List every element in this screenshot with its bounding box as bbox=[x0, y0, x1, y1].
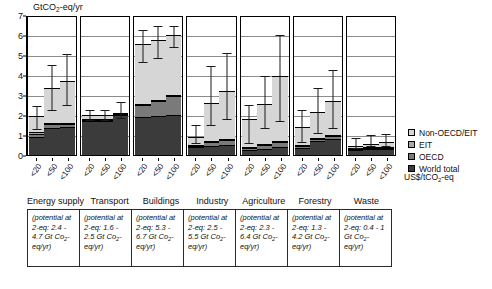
segment-world-total bbox=[257, 149, 272, 155]
sector-name-row: Energy supplyTransportBuildingsIndustryA… bbox=[27, 196, 392, 209]
error-cap-lower bbox=[207, 125, 216, 126]
segment-world-total bbox=[135, 117, 150, 155]
bar-group bbox=[294, 17, 342, 155]
error-cap-lower bbox=[222, 119, 231, 120]
y-tick-mark bbox=[23, 36, 26, 37]
segment-world-total bbox=[325, 139, 340, 155]
segment-world-total bbox=[363, 149, 378, 155]
bar-slot bbox=[219, 17, 234, 155]
sector-label: Energy supply bbox=[27, 196, 84, 209]
stacked-bar[interactable] bbox=[98, 115, 113, 155]
error-cap-upper bbox=[298, 110, 307, 111]
x-tick-mark bbox=[52, 158, 53, 161]
chart-figure: GtCO2-eq/yr 01234567 <20<50<100<20<50<10… bbox=[0, 0, 492, 289]
bar-slot bbox=[44, 17, 59, 155]
x-tick-label: <50 bbox=[204, 162, 219, 178]
x-tick-cell: <20 bbox=[28, 158, 44, 188]
error-cap-lower bbox=[298, 142, 307, 143]
legend-swatch-icon bbox=[408, 129, 415, 136]
bar-slot bbox=[98, 17, 113, 155]
sector-note-row: (potential at 2-eq: 2.4 - 4.7 Gt Co2-eq/… bbox=[27, 209, 392, 267]
y-tick-mark bbox=[23, 116, 26, 117]
x-tick-group: <20<50<100 bbox=[28, 158, 76, 188]
x-tick-mark bbox=[228, 158, 229, 161]
sector-label: Buildings bbox=[135, 196, 186, 209]
x-tick-label: <20 bbox=[188, 162, 203, 178]
error-cap-upper bbox=[207, 66, 216, 67]
segment-world-total bbox=[113, 115, 128, 155]
legend-item[interactable]: OECD bbox=[408, 151, 492, 162]
error-cap-upper bbox=[366, 135, 375, 136]
error-cap-upper bbox=[101, 110, 110, 111]
x-tick-label: <100 bbox=[164, 162, 182, 182]
error-bar bbox=[142, 31, 143, 63]
error-cap-upper bbox=[63, 54, 72, 55]
bar-slot bbox=[325, 17, 340, 155]
segment-world-total bbox=[166, 115, 181, 155]
bar-group bbox=[28, 17, 76, 155]
chart-panel: <20<50<100 bbox=[240, 16, 290, 156]
error-bar bbox=[211, 67, 212, 126]
error-cap-lower bbox=[276, 121, 285, 122]
legend-label: World total bbox=[419, 164, 459, 174]
bar-group bbox=[347, 17, 395, 155]
x-tick-mark bbox=[142, 158, 143, 161]
segment-world-total bbox=[82, 121, 97, 155]
error-bar bbox=[173, 27, 174, 48]
error-bar bbox=[36, 107, 37, 130]
bar-slot bbox=[310, 17, 325, 155]
x-tick-label: <20 bbox=[81, 162, 96, 178]
segment-world-total bbox=[98, 121, 113, 155]
stacked-bar[interactable] bbox=[82, 115, 97, 155]
x-tick-mark bbox=[36, 158, 37, 161]
stacked-bar[interactable] bbox=[113, 113, 128, 155]
error-cap-upper bbox=[222, 53, 231, 54]
x-tick-group: <20<50<100 bbox=[187, 158, 235, 188]
x-tick-cell: <20 bbox=[187, 158, 203, 188]
bar-slot bbox=[29, 17, 44, 155]
segment-world-total bbox=[204, 146, 219, 155]
segment-oecd bbox=[151, 101, 166, 116]
sector-note: (potential at 2-eq: 5.3 - 6.7 Gt Co2-eq/… bbox=[132, 210, 184, 266]
legend-item[interactable]: Non-OECD/EIT bbox=[408, 127, 492, 138]
error-cap-upper bbox=[351, 138, 360, 139]
x-tick-cell: <50 bbox=[150, 158, 166, 188]
legend-item[interactable]: World total bbox=[408, 163, 492, 174]
x-tick-cell: <100 bbox=[326, 158, 342, 188]
x-tick-cell: <20 bbox=[347, 158, 363, 188]
x-tick-mark bbox=[211, 158, 212, 161]
x-tick-cell: <50 bbox=[97, 158, 113, 188]
bar-group bbox=[134, 17, 182, 155]
error-cap-lower bbox=[116, 118, 125, 119]
x-tick-label: <100 bbox=[270, 162, 288, 182]
sector-note: (potential at 2-eq: 1.3 - 4.2 Gt Co2-eq/… bbox=[288, 210, 340, 266]
legend-swatch-icon bbox=[408, 141, 415, 148]
legend-item[interactable]: EIT bbox=[408, 139, 492, 150]
error-bar bbox=[52, 66, 53, 111]
sector-table: Energy supplyTransportBuildingsIndustryA… bbox=[27, 196, 392, 267]
error-cap-upper bbox=[245, 105, 254, 106]
legend-swatch-icon bbox=[408, 153, 415, 160]
segment-world-total bbox=[272, 147, 287, 155]
chart-panel: <20<50<100 bbox=[27, 16, 77, 156]
error-bar bbox=[226, 54, 227, 120]
x-tick-mark bbox=[89, 158, 90, 161]
x-tick-mark bbox=[281, 158, 282, 161]
x-tick-label: <100 bbox=[111, 162, 129, 182]
x-tick-mark bbox=[334, 158, 335, 161]
x-tick-cell: <100 bbox=[113, 158, 129, 188]
plot-area: 01234567 <20<50<100<20<50<100<20<50<100<… bbox=[26, 16, 396, 156]
x-tick-label: <100 bbox=[58, 162, 76, 182]
bar-slot bbox=[348, 17, 363, 155]
x-tick-group: <20<50<100 bbox=[347, 158, 395, 188]
error-cap-lower bbox=[138, 62, 147, 63]
error-cap-upper bbox=[329, 70, 338, 71]
bar-slot bbox=[188, 17, 203, 155]
stacked-bar[interactable] bbox=[166, 35, 181, 155]
x-tick-cell: <50 bbox=[363, 158, 379, 188]
x-tick-group: <20<50<100 bbox=[81, 158, 129, 188]
sector-label: Forestry bbox=[289, 196, 340, 209]
error-cap-upper bbox=[192, 125, 201, 126]
segment-world-total bbox=[60, 127, 75, 155]
sector-label: Transport bbox=[84, 196, 135, 209]
